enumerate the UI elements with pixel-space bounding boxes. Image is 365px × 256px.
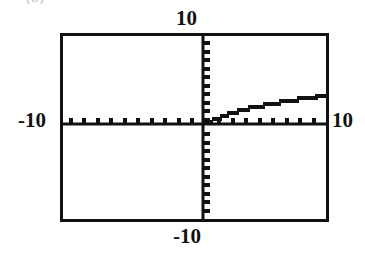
- y-axis: [203, 36, 210, 219]
- axis-label-top: 10: [176, 8, 197, 29]
- axis-label-left: -10: [18, 110, 46, 131]
- y-axis-ticks: [204, 41, 210, 213]
- plot-frame: [60, 33, 329, 222]
- axis-label-right: 10: [332, 110, 353, 131]
- caption-fragment: (b): [26, 0, 86, 4]
- axis-label-bottom: -10: [173, 226, 201, 247]
- figure-graph: (b): [0, 0, 365, 256]
- x-axis: [63, 118, 326, 124]
- data-curve: [203, 94, 326, 124]
- plot-canvas: [63, 36, 326, 219]
